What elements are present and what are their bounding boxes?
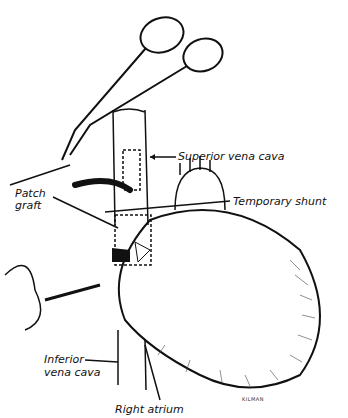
- superior-vena-cava: [113, 109, 148, 225]
- label-right-atrium: Right atrium: [115, 404, 184, 416]
- artist-signature: KILMAN: [242, 396, 264, 402]
- label-patch-graft-2: graft: [15, 200, 41, 212]
- label-inferior-vena-cava-2: vena cava: [44, 367, 101, 379]
- label-superior-vena-cava: Superior vena cava: [178, 151, 285, 163]
- scissors-icon: [62, 12, 227, 160]
- label-inferior-vena-cava-1: Inferior: [44, 354, 84, 366]
- label-temporary-shunt: Temporary shunt: [233, 196, 326, 208]
